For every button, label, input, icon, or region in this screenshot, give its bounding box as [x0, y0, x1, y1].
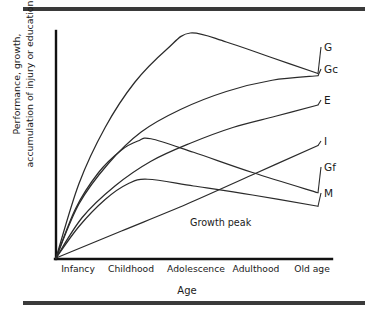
- series-label-gc: Gc: [324, 64, 338, 75]
- series-line-gf: [56, 138, 318, 258]
- series-label-g: G: [324, 42, 332, 53]
- x-tick-adulthood: Adulthood: [233, 264, 280, 273]
- series-label-i: I: [324, 136, 327, 147]
- series-label-e: E: [324, 95, 331, 106]
- series-line-gc: [56, 76, 318, 258]
- x-tick-adolescence: Adolescence: [167, 264, 225, 273]
- series-label-gf: Gf: [324, 162, 336, 173]
- leader-line-gf: [318, 167, 321, 193]
- chart-figure: G Gc E I Gf M Growth peak Infancy Childh…: [0, 0, 374, 315]
- series-leader-lines: [318, 47, 321, 206]
- x-tick-infancy: Infancy: [61, 264, 95, 273]
- series-label-m: M: [324, 188, 333, 199]
- leader-line-m: [318, 193, 321, 206]
- series-line-g: [56, 33, 318, 258]
- y-axis-title-line-1: Performance, growth,: [11, 0, 24, 169]
- growth-peak-annotation: Growth peak: [190, 217, 251, 228]
- leader-line-e: [318, 100, 321, 105]
- series-lines-group: [56, 33, 318, 258]
- series-line-m: [56, 179, 318, 258]
- series-line-e: [56, 105, 318, 258]
- series-line-i: [56, 146, 318, 259]
- x-axis-title: Age: [0, 285, 374, 296]
- x-tick-old-age: Old age: [294, 264, 330, 273]
- x-tick-childhood: Childhood: [108, 264, 154, 273]
- y-axis-title: Performance, growth, accumulation of inj…: [11, 0, 41, 169]
- leader-line-i: [318, 141, 321, 146]
- y-axis-title-line-2: accumulation of injury or education: [24, 0, 37, 169]
